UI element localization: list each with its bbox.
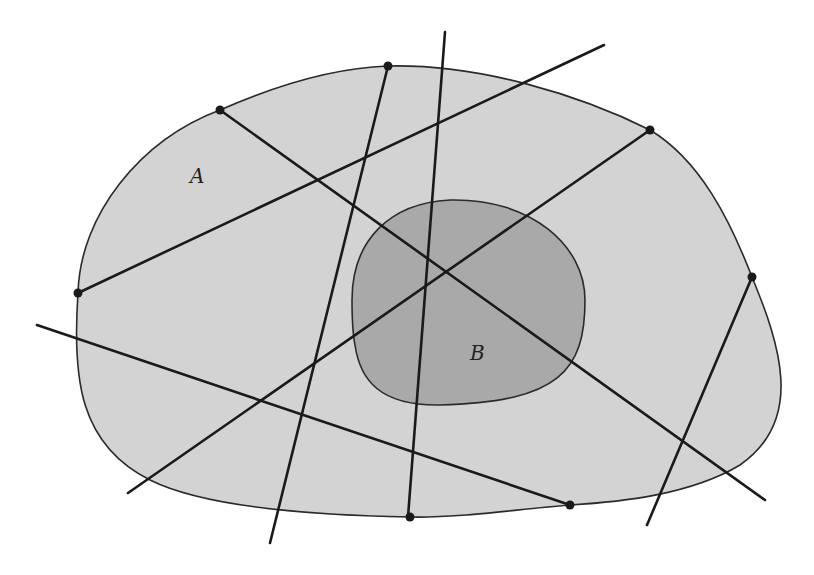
boundary-point-5	[748, 273, 757, 282]
region-a-label: A	[188, 164, 204, 188]
boundary-point-7	[406, 513, 415, 522]
convex-region-diagram: A B	[0, 0, 814, 575]
region-b-label: B	[469, 341, 485, 365]
boundary-point-2	[216, 106, 225, 115]
boundary-point-6	[566, 501, 575, 510]
boundary-point-3	[384, 62, 393, 71]
boundary-point-4	[646, 126, 655, 135]
boundary-point-1	[74, 289, 83, 298]
